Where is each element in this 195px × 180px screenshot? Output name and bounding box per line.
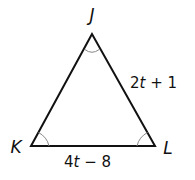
angle-mark-l [137, 133, 148, 147]
side-label-kl-coef: 4 [64, 153, 74, 171]
angle-mark-j [85, 50, 99, 53]
side-label-kl-rest: − 8 [79, 153, 111, 171]
vertex-label-l: L [163, 138, 172, 158]
side-label-kl: 4t − 8 [64, 153, 111, 171]
side-label-jl-coef: 2 [130, 74, 140, 92]
vertex-label-k: K [10, 137, 23, 157]
side-label-jl-rest: + 1 [145, 74, 177, 92]
angle-mark-k [39, 133, 50, 147]
vertex-label-j: J [86, 5, 94, 25]
side-label-jl: 2t + 1 [130, 74, 177, 92]
triangle-diagram: J K L 2t + 1 4t − 8 [0, 0, 195, 180]
